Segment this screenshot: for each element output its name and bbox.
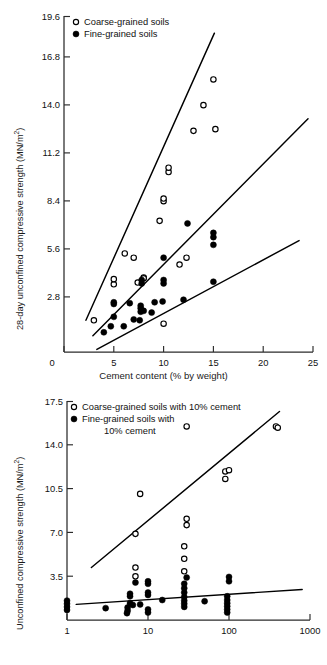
trend-line-lower-envelope	[97, 241, 299, 350]
data-point-filled-circle	[141, 308, 147, 314]
data-point-open-circle	[182, 569, 187, 574]
data-point-filled-circle	[103, 605, 109, 611]
svg-text:8.4: 8.4	[47, 195, 60, 206]
data-point-open-circle	[161, 321, 166, 326]
data-point-open-circle	[161, 196, 166, 201]
top-chart-x-axis-label: Cement content (% by weight)	[0, 370, 327, 381]
data-point-open-circle	[184, 255, 189, 260]
svg-text:1000: 1000	[300, 625, 321, 636]
svg-text:20: 20	[258, 357, 268, 368]
data-point-open-circle	[182, 556, 187, 561]
data-point-filled-circle	[185, 220, 191, 226]
top-chart-legend: Coarse-grained soils Fine-grained soils	[73, 17, 170, 39]
data-point-filled-circle	[184, 575, 190, 581]
svg-text:14.0: 14.0	[42, 99, 60, 110]
data-point-filled-circle	[210, 242, 216, 248]
top-chart-trend-lines	[86, 33, 308, 349]
data-point-filled-circle	[139, 277, 145, 283]
svg-text:5.6: 5.6	[47, 243, 60, 254]
bottom-chart-plot: 3.5 7.0 10.5 14.0 17.5 1 10 100 1000 Co	[0, 385, 327, 665]
svg-text:16.8: 16.8	[42, 51, 60, 62]
data-point-filled-circle	[101, 329, 107, 335]
svg-text:7.0: 7.0	[50, 527, 63, 538]
legend-label-coarse: Coarse-grained soils	[84, 17, 170, 27]
svg-text:100: 100	[221, 625, 237, 636]
data-point-open-circle	[184, 424, 189, 429]
bottom-chart-y-ticks	[67, 402, 73, 577]
data-point-open-circle	[184, 522, 189, 527]
data-point-filled-circle	[130, 602, 136, 608]
data-point-filled-circle	[181, 297, 187, 303]
svg-text:15: 15	[208, 357, 218, 368]
legend-label-fine: Fine-grained soils with	[82, 414, 175, 424]
data-point-open-circle	[201, 102, 206, 107]
svg-text:25: 25	[308, 357, 318, 368]
legend-marker-filled-circle	[71, 416, 77, 422]
svg-text:11.2: 11.2	[42, 147, 60, 158]
data-point-filled-circle	[210, 230, 216, 236]
data-point-filled-circle	[111, 299, 117, 305]
data-point-filled-circle	[137, 317, 143, 323]
data-point-filled-circle	[226, 574, 232, 580]
data-point-filled-circle	[108, 323, 114, 329]
data-point-filled-circle	[152, 299, 158, 305]
data-point-filled-circle	[202, 598, 208, 604]
svg-text:10: 10	[143, 625, 153, 636]
legend-marker-filled-circle	[73, 31, 79, 37]
data-point-open-circle	[182, 544, 187, 549]
bottom-chart-data-points	[64, 424, 280, 616]
data-point-filled-circle	[111, 314, 117, 320]
data-point-filled-circle	[127, 300, 133, 306]
data-point-open-circle	[91, 318, 96, 323]
legend-marker-open-circle	[71, 404, 76, 409]
bottom-chart-y-axis-label: Unconfined compressive strength (MN/m2)	[14, 457, 25, 630]
data-point-filled-circle	[159, 597, 165, 603]
legend-label-coarse: Coarse-grained soils with 10% cement	[82, 402, 241, 412]
data-point-filled-circle	[145, 590, 151, 596]
data-point-filled-circle	[132, 580, 138, 586]
data-point-filled-circle	[127, 591, 133, 597]
data-point-filled-circle	[181, 581, 187, 587]
data-point-open-circle	[177, 262, 182, 267]
data-point-open-circle	[213, 126, 218, 131]
data-point-filled-circle	[210, 279, 216, 285]
data-point-open-circle	[133, 531, 138, 536]
data-point-filled-circle	[131, 316, 137, 322]
data-point-open-circle	[133, 565, 138, 570]
figure-page: 28-day unconfined compressive strength (…	[0, 0, 327, 665]
svg-text:2.8: 2.8	[47, 291, 60, 302]
svg-text:10: 10	[158, 357, 168, 368]
data-point-open-circle	[275, 425, 280, 430]
top-chart-plot: 2.8 5.6 8.4 11.2 14.0 16.8 19.6 0 5 10	[0, 0, 327, 385]
data-point-filled-circle	[160, 298, 166, 304]
data-point-open-circle	[211, 77, 216, 82]
data-point-open-circle	[184, 516, 189, 521]
svg-text:3.5: 3.5	[50, 571, 63, 582]
data-point-open-circle	[223, 476, 228, 481]
svg-text:17.5: 17.5	[45, 396, 63, 407]
data-point-open-circle	[122, 251, 127, 256]
top-chart-data-points	[91, 77, 218, 336]
legend-label-fine-cont: 10% cement	[104, 426, 156, 436]
top-chart-y-tick-labels: 2.8 5.6 8.4 11.2 14.0 16.8 19.6	[42, 11, 60, 302]
bottom-chart-x-tick-labels: 1 10 100 1000	[64, 625, 320, 636]
top-chart-panel: 28-day unconfined compressive strength (…	[0, 0, 327, 385]
bottom-chart-y-tick-labels: 3.5 7.0 10.5 14.0 17.5	[45, 396, 63, 581]
data-point-open-circle	[226, 467, 231, 472]
data-point-filled-circle	[161, 277, 167, 283]
data-point-open-circle	[137, 491, 142, 496]
data-point-open-circle	[191, 128, 196, 133]
data-point-open-circle	[111, 276, 116, 281]
data-point-filled-circle	[224, 593, 230, 599]
top-chart-y-ticks	[64, 17, 70, 297]
data-point-filled-circle	[161, 255, 167, 261]
legend-marker-open-circle	[73, 19, 78, 24]
svg-text:10.5: 10.5	[45, 483, 63, 494]
data-point-filled-circle	[137, 601, 143, 607]
trend-line-fine-trend	[76, 589, 302, 604]
svg-text:1: 1	[64, 625, 69, 636]
bottom-chart-x-ticks	[67, 614, 310, 620]
svg-text:5: 5	[111, 357, 116, 368]
data-point-filled-circle	[145, 606, 151, 612]
svg-text:0: 0	[49, 357, 54, 368]
